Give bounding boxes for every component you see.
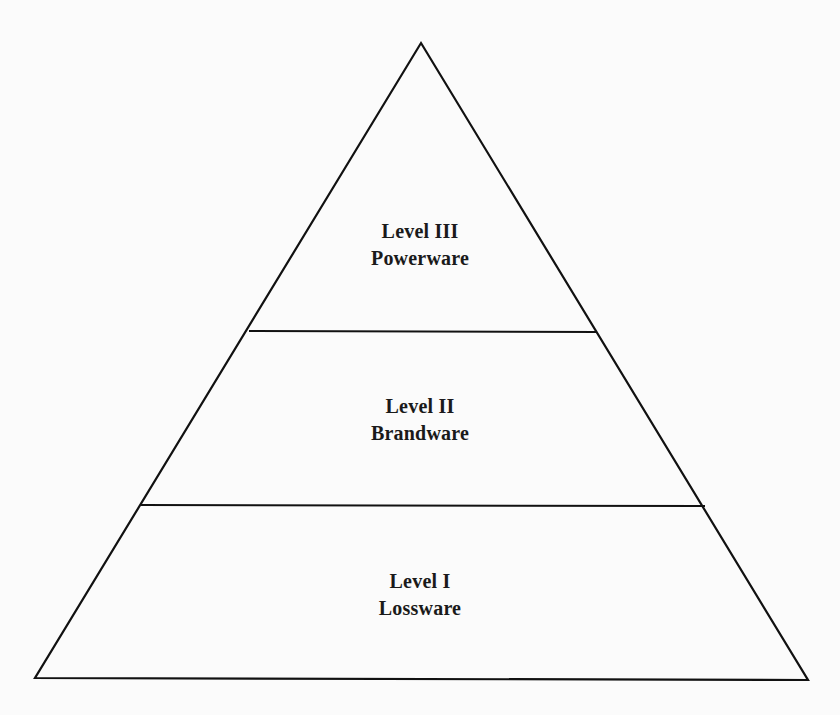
tier-level-3-name: Powerware [0, 245, 840, 272]
tier-level-2-name: Brandware [0, 420, 840, 447]
tier-level-1-name: Lossware [0, 595, 840, 622]
tier-level-3: Level III Powerware [0, 218, 840, 272]
tier-level-1-title: Level I [0, 568, 840, 595]
tier-level-3-title: Level III [0, 218, 840, 245]
divider-bottom [141, 505, 705, 506]
tier-level-2-title: Level II [0, 393, 840, 420]
tier-level-1: Level I Lossware [0, 568, 840, 622]
tier-level-2: Level II Brandware [0, 393, 840, 447]
divider-top [249, 331, 597, 332]
